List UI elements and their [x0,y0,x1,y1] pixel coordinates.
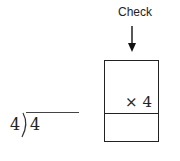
divisor: 4 [10,115,20,134]
check-box-top-cell: × 4 [105,61,158,114]
check-label: Check [118,5,152,19]
down-arrow-icon [125,26,139,53]
dividend: 4 [30,115,40,134]
division-bar [26,112,79,113]
division-bracket-icon [20,112,30,138]
multiplier-text: × 4 [125,93,152,111]
check-box: × 4 [104,60,159,142]
